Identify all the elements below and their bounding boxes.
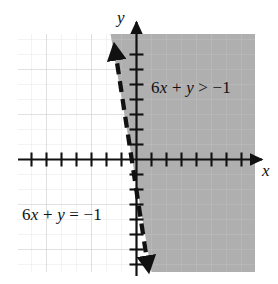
boundary-equation-label: 6x + y = −1 [22,205,102,225]
y-axis-label: y [117,8,125,28]
x-axis-label: x [262,161,270,181]
inequality-label: 6x + y > −1 [151,78,231,98]
inequality-graph-figure: y x 6x + y > −1 6x + y = −1 [0,0,278,284]
coordinate-plane-svg [0,0,278,284]
